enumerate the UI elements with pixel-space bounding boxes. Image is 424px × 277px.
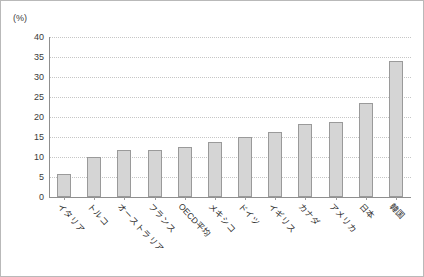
x-axis-label-slot: アメリカ <box>321 200 351 276</box>
bar <box>178 147 192 197</box>
bar <box>238 137 252 197</box>
bar-chart-figure: (%) 4035302520151050 イタリアトルコオーストラリアフランスO… <box>0 0 424 277</box>
bar-slot <box>321 37 351 197</box>
bar <box>87 157 101 197</box>
y-axis-tick-label: 10 <box>34 152 44 162</box>
bar <box>57 174 71 197</box>
bar <box>148 150 162 197</box>
y-axis-tick-label: 35 <box>34 52 44 62</box>
bar-slot <box>140 37 170 197</box>
x-axis-category-label: トルコ <box>86 202 111 228</box>
bar-slot <box>260 37 290 197</box>
bar-slot <box>381 37 411 197</box>
bar <box>208 142 222 197</box>
bar-slot <box>200 37 230 197</box>
y-axis-tick-label: 25 <box>34 92 44 102</box>
y-axis-unit-label: (%) <box>13 13 27 23</box>
x-axis-category-label: 日本 <box>358 202 376 221</box>
x-axis-label-slot: 韓国 <box>381 200 411 276</box>
bars-group <box>49 37 411 197</box>
bar-slot <box>109 37 139 197</box>
y-axis-tick-label: 30 <box>34 72 44 82</box>
bar-slot <box>290 37 320 197</box>
x-axis-label-slot: トルコ <box>79 200 109 276</box>
bar-slot <box>49 37 79 197</box>
bar <box>117 150 131 197</box>
x-axis-label-slot: メキシコ <box>200 200 230 276</box>
y-axis-tick-label: 15 <box>34 132 44 142</box>
x-axis-baseline <box>49 197 411 198</box>
bar <box>268 132 282 197</box>
x-axis-label-slot: OECD平均 <box>170 200 200 276</box>
x-axis-label-slot: 日本 <box>351 200 381 276</box>
x-axis-category-label: カナダ <box>297 202 322 228</box>
x-axis-label-slot: イギリス <box>260 200 290 276</box>
x-axis-label-slot: フランス <box>140 200 170 276</box>
y-axis-tick-label: 40 <box>34 32 44 42</box>
y-axis-tick-label: 0 <box>39 192 44 202</box>
bar-slot <box>351 37 381 197</box>
x-axis-labels-group: イタリアトルコオーストラリアフランスOECD平均メキシコドイツイギリスカナダアメ… <box>49 200 411 276</box>
x-axis-category-label: 韓国 <box>388 202 406 221</box>
bar <box>298 124 312 197</box>
x-axis-label-slot: イタリア <box>49 200 79 276</box>
x-axis-label-slot: オーストラリア <box>109 200 139 276</box>
bar <box>329 122 343 197</box>
bar-slot <box>170 37 200 197</box>
x-axis-label-slot: ドイツ <box>230 200 260 276</box>
bar-slot <box>79 37 109 197</box>
y-axis-tick-label: 5 <box>39 172 44 182</box>
y-axis-tick-label: 20 <box>34 112 44 122</box>
bar <box>359 103 373 197</box>
x-axis-category-label: ドイツ <box>237 202 262 228</box>
bar <box>389 61 403 197</box>
x-axis-label-slot: カナダ <box>290 200 320 276</box>
bar-slot <box>230 37 260 197</box>
